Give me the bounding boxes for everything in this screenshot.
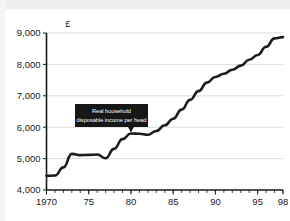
y-axis-tick-labels: 4,0005,0006,0007,0008,0009,000 (17, 27, 41, 195)
y-axis-tick-label: 7,000 (17, 90, 41, 101)
y-axis-tick-label: 9,000 (17, 27, 41, 38)
callout-text-line-2: disposable income per head (77, 117, 147, 123)
callout-text-line-1: Real household (92, 108, 131, 114)
line-chart: 4,0005,0006,0007,0008,0009,000 197075808… (0, 0, 290, 221)
chart-canvas: 4,0005,0006,0007,0008,0009,000 197075808… (0, 0, 290, 221)
x-axis-tick-label: 80 (126, 196, 137, 207)
x-axis-tick-label: 75 (83, 196, 94, 207)
y-axis-tick-label: 6,000 (17, 122, 41, 133)
y-axis-tick-label: 5,000 (17, 153, 41, 164)
x-axis-tick-labels: 1970758085909598 (36, 196, 288, 207)
gridlines (47, 33, 284, 159)
y-axis-tick-label: 8,000 (17, 59, 41, 70)
x-axis-tick-label: 98 (278, 196, 289, 207)
x-axis-tick-label: 85 (168, 196, 179, 207)
series-callout: Real household disposable income per hea… (75, 104, 148, 132)
x-axis-tick-label: 90 (210, 196, 221, 207)
y-axis-tick-label: 4,000 (17, 184, 41, 195)
y-axis-unit-label: £ (65, 18, 71, 29)
x-axis-tick-label: 1970 (36, 196, 57, 207)
x-axis-tick-label: 95 (252, 196, 263, 207)
